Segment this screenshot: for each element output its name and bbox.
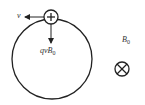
field-label-subscript: 0	[127, 39, 130, 45]
field-into-page-icon	[115, 62, 129, 76]
velocity-label: v	[17, 12, 21, 20]
orbit-circle	[12, 19, 92, 99]
force-label-subscript: 0	[52, 50, 55, 56]
field-label: B0	[122, 36, 130, 45]
force-label-main: qvB	[40, 46, 52, 55]
force-label: qvB0	[40, 47, 55, 56]
diagram-graphics	[0, 0, 145, 105]
diagram-canvas: v qvB0 B0	[0, 0, 145, 105]
